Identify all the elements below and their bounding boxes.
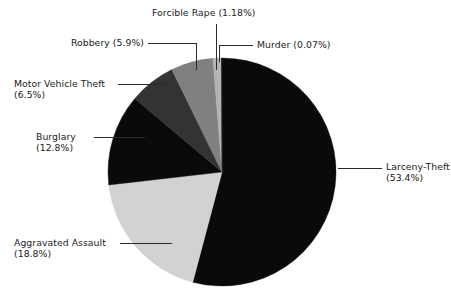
pie-label-larceny-theft-name: Larceny-Theft xyxy=(386,161,450,172)
pie-chart-figure: Forcible Rape (1.18%) Murder (0.07%) Rob… xyxy=(0,0,451,293)
pie-label-murder: Murder (0.07%) xyxy=(257,39,330,50)
pie-slices-group xyxy=(108,58,336,286)
pie-label-larceny-theft: Larceny-Theft (53.4%) xyxy=(386,161,450,184)
pie-label-forcible-rape: Forcible Rape (1.18%) xyxy=(152,7,256,18)
pie-label-murder-text: Murder (0.07%) xyxy=(257,39,330,50)
pie-label-larceny-theft-percent: (53.4%) xyxy=(386,172,450,183)
pie-label-motor-vehicle-theft: Motor Vehicle Theft (6.5%) xyxy=(14,78,105,101)
pie-label-motor-vehicle-theft-percent: (6.5%) xyxy=(14,89,105,100)
pie-label-aggravated-assault-percent: (18.8%) xyxy=(14,248,106,259)
pie-label-burglary-percent: (12.8%) xyxy=(36,142,76,153)
pie-label-aggravated-assault: Aggravated Assault (18.8%) xyxy=(14,237,106,260)
pie-label-robbery: Robbery (5.9%) xyxy=(64,37,144,48)
pie-label-aggravated-assault-name: Aggravated Assault xyxy=(14,237,106,248)
pie-label-burglary: Burglary (12.8%) xyxy=(36,131,76,154)
pie-label-burglary-name: Burglary xyxy=(36,131,76,142)
pie-label-motor-vehicle-theft-name: Motor Vehicle Theft xyxy=(14,78,105,89)
pie-label-forcible-rape-text: Forcible Rape (1.18%) xyxy=(152,7,256,18)
pie-label-robbery-text: Robbery (5.9%) xyxy=(64,37,144,48)
